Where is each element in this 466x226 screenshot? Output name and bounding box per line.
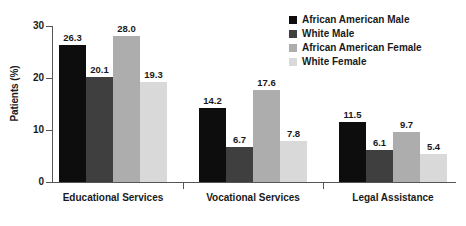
legend-item[interactable]: African American Female [289, 41, 422, 55]
bar-value-label: 19.3 [144, 69, 163, 80]
bar-value-label: 6.7 [233, 134, 246, 145]
bar-group: 26.320.128.019.3 [59, 26, 167, 182]
bar-value-label: 6.1 [373, 137, 386, 148]
legend-label: White Male [302, 29, 354, 39]
bar[interactable] [280, 141, 307, 182]
bar[interactable] [86, 77, 113, 182]
legend-swatch-icon [289, 30, 297, 38]
bar-chart: Patients (%) 0102030 26.320.128.019.314.… [0, 0, 466, 226]
bar[interactable] [226, 147, 253, 182]
x-tick-mark [323, 183, 324, 189]
legend-item[interactable]: White Male [289, 27, 422, 41]
legend-swatch-icon [289, 44, 297, 52]
x-tick-mark [183, 183, 184, 189]
bar[interactable] [59, 45, 86, 182]
bar[interactable] [339, 122, 366, 182]
bar[interactable] [113, 36, 140, 182]
legend-item[interactable]: African American Male [289, 13, 422, 27]
legend: African American MaleWhite MaleAfrican A… [289, 13, 422, 69]
bar[interactable] [199, 108, 226, 182]
legend-label: African American Female [302, 43, 422, 53]
y-tick-label: 20 [4, 72, 44, 83]
bar-value-label: 26.3 [63, 32, 82, 43]
bar-slot: 14.2 [199, 26, 226, 182]
bar-slot: 19.3 [140, 26, 167, 182]
x-category-label: Legal Assistance [339, 192, 447, 203]
legend-label: African American Male [302, 15, 409, 25]
bar[interactable] [366, 150, 393, 182]
legend-item[interactable]: White Female [289, 55, 422, 69]
bar-value-label: 9.7 [400, 119, 413, 130]
legend-label: White Female [302, 57, 366, 67]
bar-value-label: 7.8 [287, 128, 300, 139]
bar-value-label: 14.2 [203, 95, 222, 106]
x-axis-line [52, 182, 456, 183]
bar-slot: 20.1 [86, 26, 113, 182]
y-tick-label: 30 [4, 20, 44, 31]
bar-slot: 17.6 [253, 26, 280, 182]
bar[interactable] [253, 90, 280, 182]
bar-group-bars: 26.320.128.019.3 [59, 26, 167, 182]
bar-slot: 5.4 [420, 26, 447, 182]
y-tick-label: 0 [4, 176, 44, 187]
bar-slot: 6.7 [226, 26, 253, 182]
bar-value-label: 5.4 [427, 141, 440, 152]
bar-value-label: 17.6 [257, 77, 276, 88]
legend-swatch-icon [289, 16, 297, 24]
bar-value-label: 11.5 [344, 109, 362, 120]
x-category-label: Educational Services [59, 192, 167, 203]
legend-swatch-icon [289, 58, 297, 66]
bar-value-label: 20.1 [90, 64, 109, 75]
bar-value-label: 28.0 [117, 23, 136, 34]
bar[interactable] [140, 82, 167, 182]
bar-slot: 26.3 [59, 26, 86, 182]
y-tick-label: 10 [4, 124, 44, 135]
bar[interactable] [393, 132, 420, 182]
bar-slot: 28.0 [113, 26, 140, 182]
x-category-label: Vocational Services [199, 192, 307, 203]
bar[interactable] [420, 154, 447, 182]
